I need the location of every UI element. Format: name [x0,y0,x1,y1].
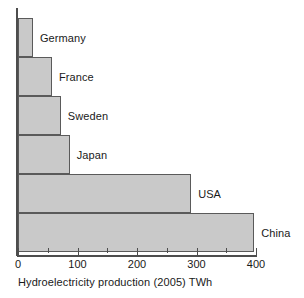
bar-row: France [18,57,256,96]
x-tick-major [78,248,79,256]
bar [18,96,61,135]
bar [18,57,52,96]
bar-category-label: France [59,71,94,82]
x-tick-label: 400 [247,259,265,270]
x-tick-major [256,248,257,256]
bar [18,18,33,57]
x-tick-minor [226,248,227,253]
bar-row: Germany [18,18,256,57]
bar-row: Sweden [18,96,256,135]
x-tick-label: 0 [15,259,21,270]
bar-row: USA [18,174,256,213]
x-tick-major [18,248,19,256]
bar-category-label: Sweden [68,110,108,121]
bar [18,174,191,213]
bar-row: Japan [18,135,256,174]
x-tick-major [137,248,138,256]
x-tick-minor [48,248,49,253]
bar-category-label: USA [198,188,221,199]
x-tick-minor [167,248,168,253]
x-tick-label: 300 [187,259,205,270]
bar-category-label: Japan [77,149,107,160]
x-tick-label: 200 [128,259,146,270]
bar-row: China [18,213,256,252]
bar [18,135,70,174]
x-axis-title: Hydroelectricity production (2005) TWh [18,277,212,288]
x-axis-tick-marks [18,248,256,257]
x-axis-tick-labels: 0100200300400 [18,259,256,275]
bar-category-label: Germany [40,32,86,43]
x-tick-minor [107,248,108,253]
x-tick-major [197,248,198,256]
hydroelectricity-bar-chart: GermanyFranceSwedenJapanUSAChina 0100200… [0,0,304,298]
bar-series-group: GermanyFranceSwedenJapanUSAChina [18,18,256,256]
bar [18,213,254,252]
x-tick-label: 100 [68,259,86,270]
bar-category-label: China [261,227,290,238]
